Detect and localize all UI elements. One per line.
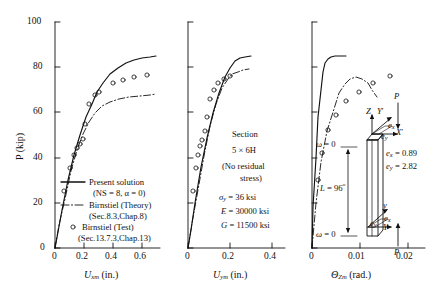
axis-label-y-local-bottom: y	[383, 200, 387, 210]
markers-test-uy	[191, 74, 232, 193]
property-sigma-y-subscript: y	[223, 195, 226, 202]
property-E-symbol: E	[221, 206, 226, 216]
axis-label-Z: Z	[366, 106, 371, 116]
markers-test-theta	[316, 74, 392, 182]
panel-ux-tick-2: 0.4	[105, 251, 117, 261]
panel-ux-tick-1: 0.2	[76, 251, 88, 261]
panel-uy-tick-1: 0.2	[222, 251, 234, 261]
y-tick-40: 40	[33, 152, 43, 162]
panel-theta-tick-1: 0.01	[348, 251, 365, 261]
ecc-x-value: ex = 0.89	[386, 148, 417, 158]
panel-uy-tick-0: 0	[185, 251, 190, 261]
panel-theta-axis-unit: (rad.)	[349, 269, 371, 280]
ecc-x-marker-bottom: ex	[384, 213, 391, 223]
panel-uy-axis-label: Uym (in.)	[213, 269, 247, 280]
legend-entry-test-line2: (Sec.13.7.3,Chap.13)	[78, 233, 151, 243]
load-label-bottom: P	[394, 247, 399, 257]
warping-label-top: ω = 0	[316, 139, 336, 149]
ecc-y-value: ey = 2.82	[386, 161, 417, 171]
figure-root: P (kip) 0 20 40 60 80 100 0 0.2 0.4 0.6 …	[0, 0, 433, 297]
legend-entry-theory-line2: (Sec.8.3,Chap.8)	[89, 211, 147, 221]
panel-ux-axis-unit: (in.)	[101, 269, 118, 280]
section-note-line-1: Section	[232, 129, 258, 139]
y-tick-0: 0	[40, 242, 45, 252]
property-E-value: 30000 ksi	[235, 206, 269, 216]
panel-theta-axis-subscript: Zm	[338, 273, 346, 280]
panel-uy-axis-unit: (in.)	[230, 269, 247, 280]
panel-ux-axis-subscript: xm	[91, 273, 99, 280]
load-label-top: P	[394, 91, 399, 101]
panel-theta-tick-0: 0	[309, 251, 314, 261]
legend-entry-test-line1: Birnstiel (Test)	[82, 222, 134, 232]
property-G-value: 11500 ksi	[236, 220, 269, 230]
curve-present-theta	[312, 56, 346, 248]
panel-uy-tick-2: 0.4	[264, 251, 276, 261]
y-tick-20: 20	[33, 197, 43, 207]
axis-label-X: X′	[396, 127, 403, 137]
ecc-y-marker-top: ey	[381, 131, 388, 141]
property-G-equals: =	[229, 220, 234, 230]
ecc-y-marker-bottom: ey	[370, 218, 377, 228]
property-E: E = 30000 ksi	[221, 206, 269, 216]
property-sigma-y-equals: =	[228, 192, 233, 202]
section-note-line-4: stress)	[240, 173, 262, 183]
legend-entry-present-line1: Present solution	[89, 177, 144, 187]
y-axis-label: P (kip)	[14, 133, 25, 160]
legend-entry-theory-line1: Birnstiel (Theory)	[89, 200, 151, 210]
section-note-line-2: 5 × 6H	[232, 145, 256, 155]
legend-entry-present-line2: (NS = 8, α = 0)	[93, 188, 145, 198]
panel-theta-axis-label: ΘZm (rad.)	[331, 269, 371, 280]
property-G-symbol: G	[221, 220, 227, 230]
y-tick-80: 80	[33, 61, 43, 71]
section-note-line-3: (No residual	[222, 161, 265, 171]
panel-ux-tick-3: 0.6	[134, 251, 146, 261]
length-label: L = 96˝	[320, 183, 345, 193]
warping-label-bottom: ω = 0	[316, 229, 336, 239]
figure-canvas	[0, 0, 433, 297]
panel-ux-tick-0: 0	[52, 251, 57, 261]
property-G: G = 11500 ksi	[221, 220, 270, 230]
property-E-equals: =	[228, 206, 233, 216]
y-tick-100: 100	[27, 16, 41, 26]
panel-uy-axis-subscript: ym	[220, 273, 228, 280]
markers-test-ux	[62, 73, 149, 193]
axis-label-Y-top: Y′	[377, 106, 384, 116]
property-sigma-y: σy = 36 ksi	[219, 192, 256, 202]
panel-ux-axis-label: Uxm (in.)	[84, 269, 118, 280]
axis-label-Y-bottom: Y	[383, 222, 388, 232]
y-tick-60: 60	[33, 106, 43, 116]
panel-theta-axes	[312, 22, 425, 248]
property-sigma-y-value: 36 ksi	[235, 192, 256, 202]
ecc-x-marker-top: ex	[388, 120, 395, 130]
